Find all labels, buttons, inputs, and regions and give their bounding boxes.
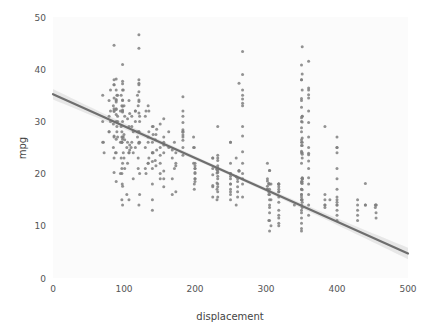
scatter-point [241, 125, 244, 128]
scatter-point [137, 104, 140, 107]
scatter-point [120, 130, 123, 133]
scatter-point [162, 136, 165, 139]
scatter-point [236, 190, 239, 193]
scatter-point [113, 171, 116, 174]
scatter-point [130, 146, 133, 149]
scatter-point [300, 193, 303, 196]
scatter-point [116, 94, 119, 97]
scatter-point [171, 193, 174, 196]
scatter-point [121, 120, 124, 123]
scatter-point [119, 141, 122, 144]
scatter-point [336, 188, 339, 191]
scatter-point [123, 133, 126, 136]
scatter-point [364, 203, 367, 206]
scatter-point [277, 185, 280, 188]
scatter-point [241, 89, 244, 92]
scatter-point [162, 185, 165, 188]
scatter-point [192, 136, 195, 139]
y-tick-label: 50 [35, 13, 47, 23]
scatter-point [181, 130, 184, 133]
scatter-point [147, 104, 150, 107]
scatter-point [137, 33, 140, 36]
scatter-point [116, 136, 119, 139]
scatter-point [307, 160, 310, 163]
scatter-point [137, 156, 140, 159]
scatter-point [229, 183, 232, 186]
scatter-point [268, 193, 271, 196]
scatter-point [121, 162, 124, 165]
scatter-point [137, 78, 140, 81]
x-axis-title: displacement [196, 311, 263, 322]
scatter-point [277, 216, 280, 219]
scatter-point [229, 141, 232, 144]
scatter-point [137, 203, 140, 206]
scatter-point [229, 162, 232, 165]
scatter-point [307, 121, 310, 124]
scatter-point [122, 136, 125, 139]
scatter-point [241, 50, 244, 53]
scatter-point [181, 146, 184, 149]
scatter-point [151, 209, 154, 212]
scatter-point [137, 112, 140, 115]
scatter-point [130, 125, 133, 128]
scatter-point [130, 141, 133, 144]
scatter-point [109, 109, 112, 112]
scatter-point [138, 193, 141, 196]
scatter-plot-svg: 0100200300400500 01020304050 displacemen… [0, 0, 437, 329]
scatter-point [128, 143, 131, 146]
scatter-point [193, 188, 196, 191]
scatter-point [300, 180, 303, 183]
scatter-point [123, 115, 126, 118]
scatter-point [307, 146, 310, 149]
scatter-point [125, 146, 128, 149]
scatter-point [216, 188, 219, 191]
scatter-point [211, 184, 214, 187]
scatter-point [126, 117, 129, 120]
scatter-point [300, 130, 303, 133]
scatter-point [112, 104, 115, 107]
scatter-point [229, 198, 232, 201]
y-axis-title: mpg [17, 137, 28, 159]
scatter-point [307, 167, 310, 170]
scatter-point [193, 183, 196, 186]
scatter-point [323, 193, 326, 196]
scatter-point [174, 151, 177, 154]
y-tick-label: 40 [35, 65, 47, 75]
scatter-point [137, 47, 140, 50]
scatter-point [137, 99, 140, 102]
y-tick-label: 20 [35, 169, 47, 179]
scatter-point [173, 167, 176, 170]
scatter-point [151, 183, 154, 186]
scatter-point [113, 136, 116, 139]
scatter-point [154, 164, 157, 167]
scatter-point [336, 177, 339, 180]
scatter-point [181, 136, 184, 139]
scatter-point [121, 63, 124, 66]
scatter-point [159, 177, 162, 180]
scatter-point [336, 136, 339, 139]
scatter-point [241, 162, 244, 165]
scatter-point [277, 190, 280, 193]
scatter-point [307, 214, 310, 217]
scatter-point [277, 214, 280, 217]
scatter-point [301, 45, 304, 48]
scatter-point [300, 78, 303, 81]
scatter-point [137, 90, 140, 93]
scatter-point [300, 188, 303, 191]
scatter-point [307, 153, 310, 156]
scatter-point [108, 115, 111, 118]
scatter-point [307, 136, 310, 139]
scatter-point [364, 182, 367, 185]
scatter-point [136, 94, 139, 97]
scatter-point [134, 146, 137, 149]
scatter-point [336, 214, 339, 217]
scatter-point [300, 227, 303, 230]
scatter-point [336, 209, 339, 212]
scatter-point [211, 173, 214, 176]
scatter-point [138, 115, 141, 118]
scatter-point [374, 206, 377, 209]
scatter-point [152, 133, 155, 136]
chart-figure: 0100200300400500 01020304050 displacemen… [0, 0, 437, 329]
scatter-point [120, 198, 123, 201]
scatter-point [120, 104, 123, 107]
